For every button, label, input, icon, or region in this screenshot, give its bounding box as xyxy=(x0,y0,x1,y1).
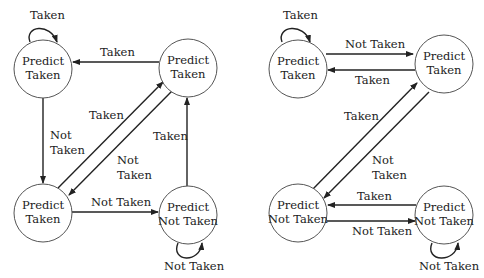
svg-text:Predict: Predict xyxy=(423,200,466,214)
svg-text:Not Taken: Not Taken xyxy=(268,212,329,226)
svg-text:Taken: Taken xyxy=(26,68,61,82)
right-label-s3-to-s2: Taken xyxy=(357,189,392,203)
fsm-diagrams: Taken Taken Not Taken Taken Not Taken Ta… xyxy=(0,0,484,278)
right-self-loop-s3 xyxy=(431,243,458,258)
left-label-s2-to-s3: Not Taken xyxy=(91,195,152,209)
left-label-s1-to-s2-l1: Not xyxy=(117,153,139,167)
svg-text:Predict: Predict xyxy=(22,54,65,68)
right-diagram: Taken Not Taken Taken Taken Not Taken Ta… xyxy=(268,8,480,273)
svg-text:Predict: Predict xyxy=(167,200,210,214)
left-label-s0-to-s2-l1: Not xyxy=(50,128,72,142)
svg-text:Taken: Taken xyxy=(171,67,206,81)
svg-text:Predict: Predict xyxy=(277,198,320,212)
svg-text:Predict: Predict xyxy=(22,198,65,212)
left-label-s3-to-s1: Taken xyxy=(153,129,188,143)
left-label-s0-to-s2-l2: Taken xyxy=(50,143,85,157)
left-label-s1-to-s0: Taken xyxy=(100,45,135,59)
svg-text:Not Taken: Not Taken xyxy=(414,214,475,228)
svg-text:Taken: Taken xyxy=(281,68,316,82)
svg-text:Not Taken: Not Taken xyxy=(158,214,219,228)
svg-text:Predict: Predict xyxy=(167,53,210,67)
left-diagram: Taken Taken Not Taken Taken Not Taken Ta… xyxy=(14,8,225,273)
left-state-3: Predict Not Taken xyxy=(158,186,219,244)
right-state-1: Predict Taken xyxy=(415,35,473,93)
left-state-1: Predict Taken xyxy=(159,39,217,97)
right-label-s1-to-s0: Taken xyxy=(355,73,390,87)
svg-text:Taken: Taken xyxy=(26,212,61,226)
right-label-s2-to-s1: Taken xyxy=(344,109,379,123)
right-label-self-s0: Taken xyxy=(283,8,318,22)
right-label-s2-to-s3: Not Taken xyxy=(352,224,413,238)
right-label-s1-to-s2-l1: Not xyxy=(372,153,394,167)
right-label-s0-to-s1: Not Taken xyxy=(345,37,406,51)
left-label-s2-to-s1: Taken xyxy=(89,108,124,122)
left-label-s1-to-s2-l2: Taken xyxy=(117,168,152,182)
right-edge-s1-to-s2 xyxy=(324,92,429,198)
right-label-self-s3: Not Taken xyxy=(419,259,480,273)
left-state-2: Predict Taken xyxy=(14,184,72,242)
left-label-self-s0: Taken xyxy=(30,8,65,22)
left-state-0: Predict Taken xyxy=(14,40,72,98)
right-label-s1-to-s2-l2: Taken xyxy=(372,168,407,182)
svg-text:Taken: Taken xyxy=(427,63,462,77)
svg-text:Predict: Predict xyxy=(277,54,320,68)
right-state-0: Predict Taken xyxy=(269,40,327,98)
right-state-3: Predict Not Taken xyxy=(414,186,475,244)
right-state-2: Predict Not Taken xyxy=(268,184,329,242)
left-self-loop-s3 xyxy=(177,243,202,258)
left-label-self-s3: Not Taken xyxy=(164,259,225,273)
svg-text:Predict: Predict xyxy=(423,49,466,63)
